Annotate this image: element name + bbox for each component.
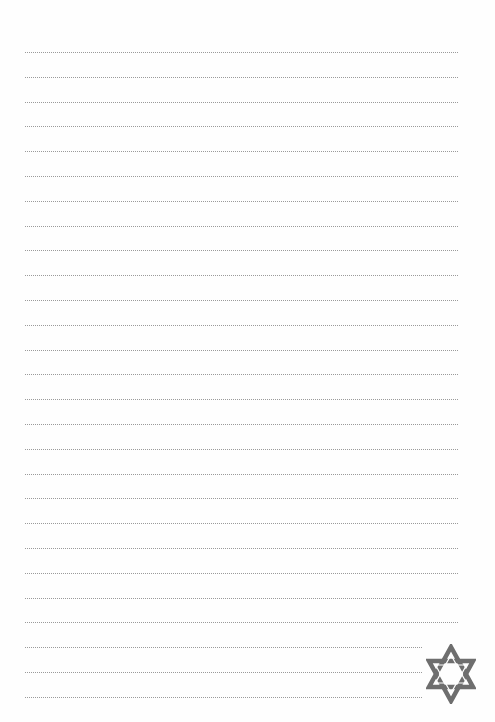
ruled-line	[25, 300, 458, 301]
ruled-line	[25, 498, 458, 499]
ruled-line	[25, 250, 458, 251]
ruled-line	[25, 523, 458, 524]
ruled-line	[25, 226, 458, 227]
ruled-line	[25, 598, 458, 599]
ruled-line	[25, 126, 458, 127]
ruled-line	[25, 647, 422, 648]
ruled-line	[25, 102, 458, 103]
ruled-line	[25, 275, 458, 276]
ruled-line	[25, 474, 458, 475]
ruled-line	[25, 672, 422, 673]
ruled-line	[25, 449, 458, 450]
ruled-line	[25, 548, 458, 549]
ruled-line	[25, 201, 458, 202]
ruled-line	[25, 325, 458, 326]
lined-paper	[0, 0, 495, 722]
star-of-david-icon	[426, 644, 476, 704]
ruled-line	[25, 350, 458, 351]
ruled-line	[25, 176, 458, 177]
ruled-line	[25, 424, 458, 425]
ruled-line	[25, 77, 458, 78]
ruled-line	[25, 374, 458, 375]
ruled-line	[25, 573, 458, 574]
ruled-line	[25, 52, 458, 53]
ruled-line	[25, 151, 458, 152]
ruled-line	[25, 399, 458, 400]
ruled-line	[25, 697, 422, 698]
ruled-line	[25, 622, 458, 623]
